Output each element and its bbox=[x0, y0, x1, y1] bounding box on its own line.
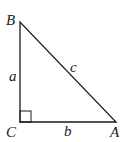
side-label-a: a bbox=[9, 68, 17, 84]
side-label-c: c bbox=[70, 59, 77, 75]
right-triangle-diagram: B a c C b A bbox=[0, 0, 127, 142]
vertex-label-b: B bbox=[6, 12, 15, 28]
vertex-label-a: A bbox=[109, 124, 120, 140]
triangle bbox=[20, 22, 116, 122]
side-label-b: b bbox=[64, 123, 72, 139]
vertex-label-c: C bbox=[6, 124, 17, 140]
right-angle-marker bbox=[20, 111, 31, 122]
